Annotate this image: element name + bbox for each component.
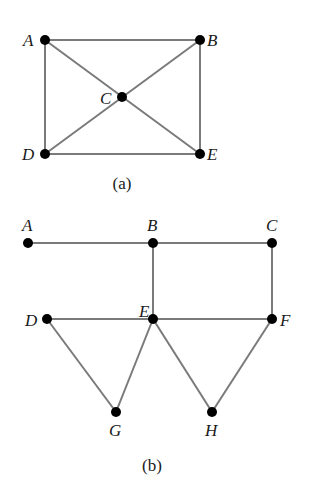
vertex-E: [195, 149, 205, 159]
graph-b: ABCDEFGH(b): [21, 216, 291, 475]
edge-H-F: [212, 319, 272, 412]
vertex-label: E: [206, 145, 218, 164]
vertex-label: G: [109, 421, 121, 440]
vertex-label: H: [204, 421, 219, 440]
vertex-label: D: [21, 145, 35, 164]
edge-E-H: [153, 319, 212, 412]
vertex-F: [267, 314, 277, 324]
graph-diagrams: ABCDE(a)ABCDEFGH(b): [0, 0, 318, 492]
vertex-G: [111, 407, 121, 417]
vertex-label: D: [24, 311, 38, 330]
vertex-C: [267, 238, 277, 248]
vertex-label: C: [266, 216, 278, 235]
vertex-B: [195, 35, 205, 45]
vertex-label: A: [21, 216, 33, 235]
vertex-C: [117, 92, 127, 102]
edge-D-G: [47, 319, 116, 412]
vertex-label: B: [207, 31, 218, 50]
vertex-A: [23, 238, 33, 248]
vertex-label: C: [100, 89, 112, 108]
vertex-E: [148, 314, 158, 324]
vertex-label: F: [279, 311, 291, 330]
vertex-D: [40, 149, 50, 159]
graph-a: ABCDE(a): [21, 31, 218, 193]
caption-a: (a): [113, 174, 132, 193]
vertex-B: [148, 238, 158, 248]
vertex-label: A: [22, 31, 34, 50]
edge-G-E: [116, 319, 153, 412]
vertex-H: [207, 407, 217, 417]
vertex-A: [40, 35, 50, 45]
caption-b: (b): [142, 456, 162, 475]
vertex-label: B: [147, 216, 158, 235]
vertex-label: E: [138, 302, 150, 321]
vertex-D: [42, 314, 52, 324]
